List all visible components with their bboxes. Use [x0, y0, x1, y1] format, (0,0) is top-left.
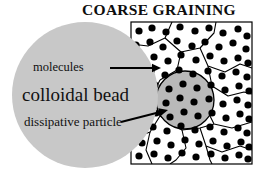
molecule-dot	[175, 66, 182, 73]
molecule-dot	[218, 72, 225, 79]
molecule-dot	[193, 84, 200, 91]
molecule-dot	[192, 153, 199, 160]
molecule-dot	[177, 122, 184, 129]
molecule-dot	[245, 87, 252, 94]
molecule-dot	[176, 94, 183, 101]
molecule-dot	[209, 137, 216, 144]
molecule-dot	[207, 81, 214, 88]
molecule-dot	[208, 109, 215, 116]
molecule-dot	[244, 59, 251, 66]
molecule-dot	[150, 150, 157, 157]
molecule-dot	[236, 110, 243, 117]
molecule-dot	[192, 56, 199, 63]
molecule-dot	[191, 27, 198, 34]
molecule-dot	[150, 53, 157, 60]
molecule-dot	[220, 128, 227, 135]
figure-title: COARSE GRAINING	[0, 1, 266, 19]
molecule-dot	[207, 150, 214, 157]
molecule-dot	[167, 141, 174, 148]
molecule-dot	[220, 57, 227, 64]
molecule-dot	[232, 68, 239, 75]
molecule-dot	[135, 152, 142, 159]
molecule-dot	[177, 51, 184, 58]
molecule-dot	[135, 27, 142, 34]
molecule-dot	[173, 37, 180, 44]
molecule-dot	[194, 112, 201, 119]
molecule-dot	[164, 154, 171, 161]
molecule-dot	[245, 115, 252, 122]
molecule-dot	[166, 113, 173, 120]
label-dissipative-particle: dissipative particle	[24, 114, 122, 130]
molecule-dot	[206, 123, 213, 130]
molecule-dot	[164, 57, 171, 64]
molecule-dot	[180, 108, 187, 115]
molecule-dot	[222, 114, 229, 121]
molecule-dot	[221, 86, 228, 93]
molecule-dot	[205, 95, 212, 102]
molecule-dot	[223, 142, 230, 149]
molecule-dot	[233, 96, 240, 103]
molecule-dot	[191, 126, 198, 133]
molecule-dot	[189, 70, 196, 77]
molecule-dot	[234, 25, 241, 32]
molecule-dot	[162, 99, 169, 106]
molecule-dot	[219, 100, 226, 107]
molecule-dot	[243, 129, 250, 136]
molecule-dot	[206, 52, 213, 59]
molecule-dot	[195, 140, 202, 147]
label-molecules: molecules	[33, 60, 84, 75]
molecule-dot	[204, 67, 211, 74]
molecule-dot	[179, 80, 186, 87]
molecule-dot	[165, 85, 172, 92]
molecule-dot	[234, 124, 241, 131]
molecule-dot	[188, 42, 195, 49]
molecule-dot	[159, 43, 166, 50]
molecule-dot	[244, 155, 251, 162]
label-colloidal-bead: colloidal bead	[22, 84, 129, 106]
molecule-dot	[163, 127, 170, 134]
molecule-dot	[243, 73, 250, 80]
molecule-dot	[153, 137, 160, 144]
molecule-dot	[146, 38, 153, 45]
molecule-dot	[229, 39, 236, 46]
molecule-dot	[162, 28, 169, 35]
molecule-dot	[234, 54, 241, 61]
molecule-dot	[190, 98, 197, 105]
molecule-dot	[181, 136, 188, 143]
molecule-dot	[245, 143, 252, 150]
molecule-dot	[235, 82, 242, 89]
molecule-dot	[242, 45, 249, 52]
molecule-dot	[205, 24, 212, 31]
molecule-dot	[201, 38, 208, 45]
molecule-dot	[215, 43, 222, 50]
molecule-dot	[237, 138, 244, 145]
molecule-dot	[235, 151, 242, 158]
molecule-dot	[178, 149, 185, 156]
molecule-dot	[221, 154, 228, 161]
molecule-dot	[244, 101, 251, 108]
coarse-graining-figure: COARSE GRAINING molecules colloidal bead…	[0, 0, 266, 179]
molecule-dot	[219, 29, 226, 36]
molecule-dot	[243, 32, 250, 39]
molecule-dot	[148, 24, 155, 31]
molecule-dot	[176, 23, 183, 30]
molecule-dot	[161, 71, 168, 78]
